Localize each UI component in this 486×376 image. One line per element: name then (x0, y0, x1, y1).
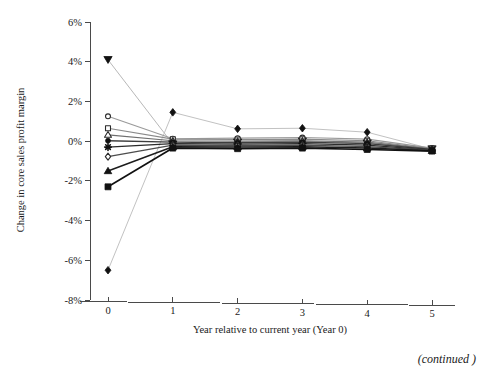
data-point-open-diamond (105, 153, 110, 160)
y-tick-label: 6% (68, 17, 82, 28)
x-axis-title: Year relative to current year (Year 0) (193, 324, 348, 336)
x-axis-line (80, 302, 455, 306)
series-filled-down-triangle-line (108, 60, 432, 149)
axes: 6%4%2%0%-2%-4%-6%-8%012345 (65, 17, 455, 320)
continued-note: (continued ) (418, 352, 476, 367)
series-filled-square-line (108, 148, 432, 187)
y-tick-label: 2% (68, 96, 82, 107)
y-tick-label: -8% (65, 295, 83, 306)
series-filled-square-markers (105, 145, 435, 190)
data-point-filled-diamond (105, 266, 111, 274)
data-point-open-triangle (105, 132, 112, 138)
y-axis-title: Change in core sales profit margin (15, 87, 26, 232)
data-point-filled-star (105, 144, 112, 151)
data-point-filled-square (105, 184, 111, 190)
data-point-filled-diamond (364, 128, 370, 136)
data-point-filled-diamond (235, 125, 241, 133)
x-tick-label: 4 (365, 308, 371, 319)
y-tick-label: -6% (65, 255, 83, 266)
data-point-filled-circle (106, 138, 111, 143)
x-tick-label: 3 (300, 307, 305, 318)
data-point-filled-square (170, 145, 176, 151)
plot-area (104, 57, 436, 274)
data-point-open-circle (106, 114, 111, 119)
y-tick-label: 0% (68, 136, 82, 147)
data-point-filled-diamond (299, 124, 305, 132)
x-tick-label: 1 (170, 305, 175, 316)
data-point-filled-diamond (170, 109, 176, 117)
data-point-filled-down-triangle (104, 57, 112, 64)
data-point-filled-square (299, 145, 305, 151)
y-tick-label: 4% (68, 56, 82, 67)
star-core (107, 146, 110, 149)
series-filled-diamond-markers (105, 109, 435, 274)
profit-margin-line-chart: 6%4%2%0%-2%-4%-6%-8%012345 Change in cor… (0, 0, 486, 376)
figure-root: 6%4%2%0%-2%-4%-6%-8%012345 Change in cor… (0, 0, 486, 376)
data-point-filled-square (364, 147, 370, 153)
data-point-filled-square (429, 148, 435, 154)
y-tick-label: -4% (65, 215, 83, 226)
x-tick-label: 5 (429, 308, 434, 319)
data-point-filled-square (235, 146, 241, 152)
data-point-open-square (106, 126, 111, 131)
y-tick-label: -2% (65, 175, 83, 186)
series-lines (108, 60, 432, 270)
x-tick-label: 0 (105, 305, 110, 316)
x-tick-label: 2 (235, 306, 240, 317)
series-markers (104, 57, 436, 274)
